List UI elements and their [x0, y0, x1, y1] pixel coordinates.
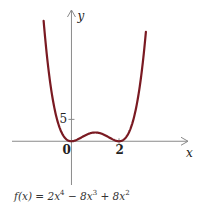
y-tick-label-5: 5 [59, 112, 67, 126]
function-curve [44, 21, 146, 141]
x-axis-label: x [186, 146, 193, 160]
function-caption: f(x) = 2x4 − 8x3 + 8x2 [14, 189, 130, 202]
x-tick-label-0: 0 [62, 143, 70, 157]
function-graph: 025 x y [0, 0, 205, 212]
x-tick-label-2: 2 [116, 143, 124, 157]
caption-mid-2: + 8x [97, 190, 125, 202]
caption-prefix: f(x) = 2x [14, 190, 60, 202]
y-axis-label: y [76, 9, 84, 23]
caption-exp-2: 2 [125, 189, 129, 197]
caption-mid-1: − 8x [65, 190, 93, 202]
